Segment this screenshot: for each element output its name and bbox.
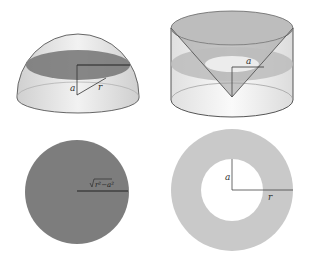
hemisphere-figure: a r xyxy=(17,34,139,113)
annulus-figure: a r xyxy=(171,129,293,251)
label-radicand: r²−a² xyxy=(95,181,114,189)
disk xyxy=(25,140,129,244)
label-a-cyl: a xyxy=(246,56,251,66)
cylinder-figure: a xyxy=(171,11,293,117)
diagram-canvas: a r a r²−a² a r xyxy=(0,0,311,269)
label-a-annulus: a xyxy=(225,172,230,182)
label-r-annulus: r xyxy=(268,192,273,202)
label-a: a xyxy=(70,83,75,93)
cylinder-top xyxy=(171,11,293,45)
label-r: r xyxy=(98,82,103,92)
disk-figure: r²−a² xyxy=(25,140,129,244)
